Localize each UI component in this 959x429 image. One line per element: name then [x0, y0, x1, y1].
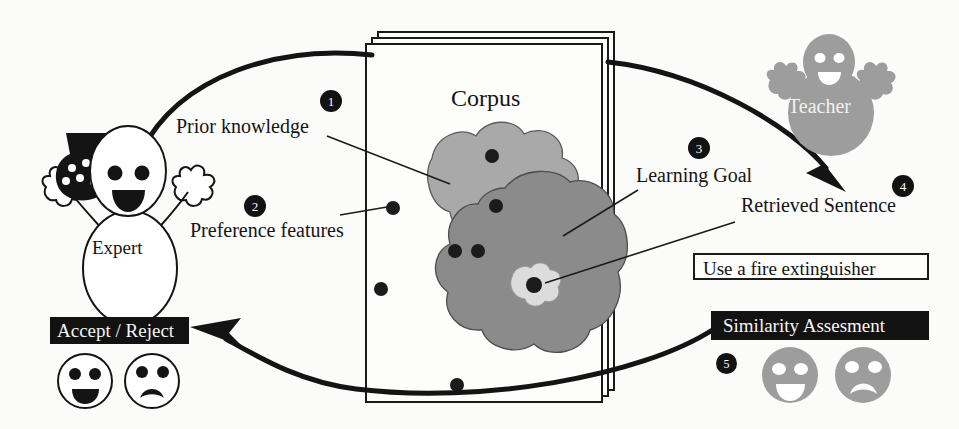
expert-hat-dot: [82, 159, 90, 167]
expert-hat-dot: [68, 164, 76, 172]
expert-body: [83, 211, 177, 325]
expert-sad-face-icon: [125, 354, 179, 408]
diagram-canvas: Prior knowledge Preference features Corp…: [0, 0, 959, 429]
teacher-eye-left: [815, 53, 826, 63]
teacher-sad-eye-right: [868, 361, 882, 373]
teacher-eye-right: [834, 53, 845, 63]
arrowhead-to-accept-reject: [190, 318, 243, 347]
corpus-title: Corpus: [451, 86, 520, 110]
expert-sad-eye-right: [157, 366, 169, 378]
expert-right-hand-icon: [173, 166, 215, 206]
step-badge-1: 1: [320, 90, 342, 112]
step-badge-3: 3: [688, 137, 710, 159]
teacher-label: Teacher: [788, 96, 851, 116]
expert-label: Expert: [92, 238, 143, 257]
accept-reject-text: Accept / Reject: [57, 320, 174, 342]
teacher-happy-eye-right: [794, 363, 808, 375]
corpus-point: [489, 199, 503, 213]
expert-hat-dot: [76, 174, 84, 182]
expert-eye-left: [108, 166, 123, 181]
label-preference-features: Preference features: [190, 220, 344, 240]
label-learning-goal: Learning Goal: [636, 165, 752, 185]
similarity-assessment-box: Similarity Assesment: [711, 311, 929, 340]
expert-sad-eye-left: [136, 366, 148, 378]
expert-happy-eye-left: [69, 368, 81, 380]
step-badge-5: 5: [716, 353, 737, 374]
expert-eye-right: [135, 166, 150, 181]
corpus-point: [485, 149, 499, 163]
teacher-sad-eye-left: [845, 361, 859, 373]
teacher-sad-face-icon: [835, 347, 891, 403]
corpus-point-retrieved: [526, 277, 542, 293]
retrieved-sentence-text: Use a fire extinguisher: [703, 258, 876, 280]
accept-reject-box: Accept / Reject: [50, 317, 189, 344]
step-badge-4: 4: [892, 175, 914, 197]
label-prior-knowledge: Prior knowledge: [176, 116, 309, 136]
corpus-point: [386, 201, 400, 215]
retrieved-sentence-box: Use a fire extinguisher: [693, 253, 929, 280]
corpus-point: [374, 282, 388, 296]
corpus-point: [448, 244, 462, 258]
teacher-happy-eye-left: [772, 363, 786, 375]
similarity-assessment-text: Similarity Assesment: [723, 315, 885, 337]
expert-happy-eye-right: [89, 368, 101, 380]
step-badge-2: 2: [244, 195, 266, 217]
label-retrieved-sentence: Retrieved Sentence: [741, 195, 896, 215]
corpus-point: [471, 244, 485, 258]
expert-hat-dot: [62, 177, 70, 185]
